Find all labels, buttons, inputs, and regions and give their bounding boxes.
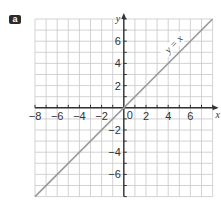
coordinate-grid-chart: −8−6−4−2246642−2−4−60xyy = x bbox=[0, 0, 221, 208]
x-tick-label: 4 bbox=[165, 110, 171, 122]
y-tick-label: −2 bbox=[108, 124, 121, 136]
x-tick-label: −4 bbox=[73, 110, 86, 122]
y-axis-label: y bbox=[115, 13, 121, 24]
origin-label: 0 bbox=[127, 109, 133, 121]
x-tick-label: −8 bbox=[29, 110, 42, 122]
y-tick-label: 4 bbox=[115, 57, 121, 69]
y-tick-label: −6 bbox=[108, 168, 121, 180]
x-tick-label: −2 bbox=[95, 110, 108, 122]
x-tick-label: 2 bbox=[143, 110, 149, 122]
y-axis-arrow-icon bbox=[121, 13, 126, 19]
y-tick-label: −4 bbox=[108, 146, 121, 158]
x-axis-label: x bbox=[215, 109, 221, 120]
y-tick-label: 6 bbox=[115, 35, 121, 47]
x-tick-label: 6 bbox=[187, 110, 193, 122]
x-tick-label: −6 bbox=[51, 110, 64, 122]
y-tick-label: 2 bbox=[115, 80, 121, 92]
